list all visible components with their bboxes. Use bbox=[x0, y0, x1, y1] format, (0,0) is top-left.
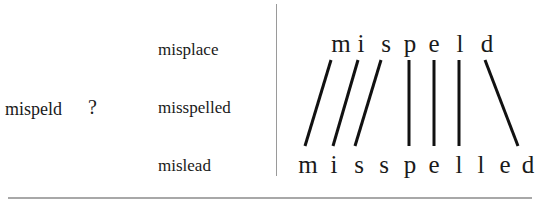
link-s-s bbox=[355, 60, 381, 146]
bottom-rule bbox=[8, 197, 532, 199]
link-i-i bbox=[333, 60, 358, 146]
alignment-links bbox=[0, 0, 541, 216]
link-m-m bbox=[305, 60, 331, 146]
target-letter: s bbox=[354, 152, 364, 177]
target-letter: i bbox=[331, 152, 338, 177]
target-letter: e bbox=[499, 152, 510, 177]
target-letter: p bbox=[404, 152, 417, 177]
target-letter: s bbox=[379, 152, 389, 177]
link-d-d bbox=[485, 60, 518, 146]
target-letter: l bbox=[456, 152, 463, 177]
target-letter: l bbox=[478, 152, 485, 177]
target-letter: m bbox=[298, 152, 317, 177]
target-letter: d bbox=[522, 152, 535, 177]
target-letter: e bbox=[428, 152, 439, 177]
